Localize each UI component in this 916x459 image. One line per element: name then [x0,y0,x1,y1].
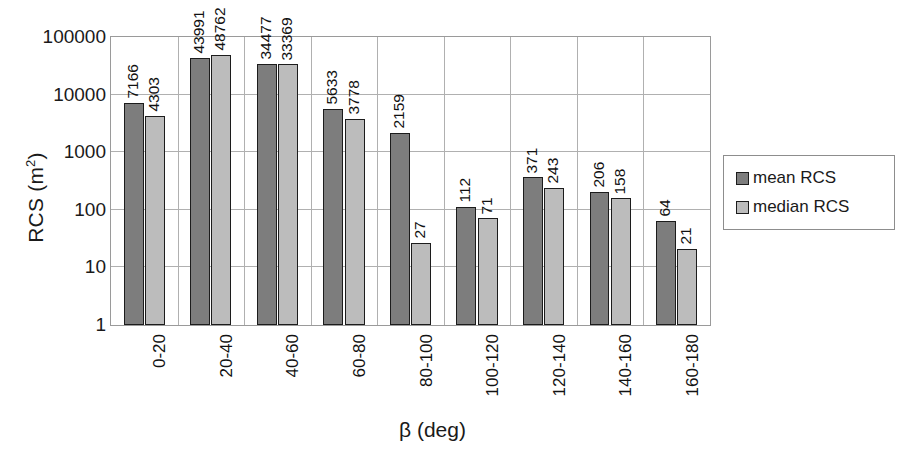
x-axis-tick-label: 80-100 [418,334,435,387]
legend-swatch-icon [736,172,749,185]
bar-value-label: 206 [590,162,606,188]
bar-mean [656,221,676,325]
gridline-vertical [178,37,179,325]
y-axis-tick-label: 1000 [64,142,106,161]
x-axis-title: β (deg) [0,418,865,442]
plot-area: 7166430343991487623447733369563337782159… [110,36,711,326]
bar-median [145,116,165,325]
bar-value-label: 5633 [324,70,340,104]
bar-value-label: 371 [523,147,539,173]
y-axis-tick-label: 10 [85,257,106,276]
bar-value-label: 7166 [124,64,140,98]
bar-value-label: 3778 [345,80,361,114]
bar-value-label: 48762 [212,8,228,51]
gridline-vertical [377,37,378,325]
bar-mean [590,192,610,325]
bar-value-label: 158 [611,168,627,194]
bar-value-label: 2159 [390,94,406,128]
rcs-bar-chart: RCS (m2) 100000100001000100101 716643034… [0,0,916,459]
bar-median [611,198,631,325]
y-axis-tick-label: 100 [74,199,106,218]
legend-item-label: median RCS [753,197,849,217]
x-axis-tick-label: 100-120 [484,334,501,396]
y-axis-tick-labels: 100000100001000100101 [18,36,106,326]
gridline-vertical [643,37,644,325]
bar-value-label: 4303 [145,77,161,111]
gridline-vertical [244,37,245,325]
bar-mean [257,64,277,325]
chart-legend: mean RCSmedian RCS [723,155,895,230]
bar-value-label: 21 [678,228,694,245]
bar-value-label: 43991 [191,10,207,53]
x-axis-tick-label: 20-40 [218,334,235,377]
bar-value-label: 64 [657,200,673,217]
gridline-vertical [510,37,511,325]
bar-median [278,64,298,325]
bar-mean [456,207,476,325]
bar-mean [390,133,410,325]
x-axis-tick-labels: 0-2020-4040-6060-8080-100100-120120-1401… [110,330,711,420]
bar-value-label: 34477 [257,17,273,60]
x-axis-tick-label: 120-140 [551,334,568,396]
gridline-vertical [444,37,445,325]
x-axis-tick-label: 140-160 [617,334,634,396]
x-axis-tick-label: 60-80 [351,334,368,377]
x-axis-tick-label: 160-180 [684,334,701,396]
x-axis-tick-label: 0-20 [151,334,168,368]
y-axis-tick-label: 1 [95,315,106,334]
legend-item[interactable]: mean RCS [736,168,884,188]
bar-median [544,188,564,325]
bar-median [677,249,697,325]
legend-item-label: mean RCS [753,168,836,188]
bar-mean [124,103,144,325]
bar-median [345,119,365,325]
y-axis-tick-label: 10000 [53,84,106,103]
bar-mean [323,109,343,325]
bar-value-label: 27 [412,221,428,238]
bar-mean [190,58,210,325]
bar-value-label: 112 [457,178,473,203]
y-axis-tick-label: 100000 [43,27,106,46]
bar-median [211,55,231,325]
bar-mean [523,177,543,325]
bar-value-label: 71 [478,197,494,214]
x-axis-tick-label: 40-60 [284,334,301,377]
gridline-vertical [577,37,578,325]
bar-value-label: 243 [545,158,561,184]
legend-item[interactable]: median RCS [736,197,884,217]
legend-swatch-icon [736,201,749,214]
bar-median [411,243,431,325]
bar-median [478,218,498,325]
gridline-vertical [311,37,312,325]
bar-value-label: 33369 [279,17,295,60]
